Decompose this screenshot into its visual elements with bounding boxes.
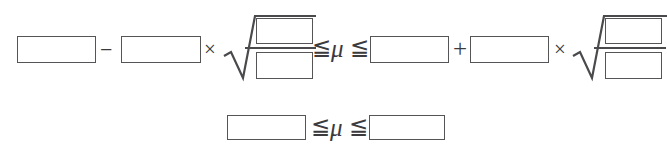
- plus-operator: +: [453, 36, 467, 61]
- blank-box-radical-numerator-left[interactable]: [256, 18, 313, 44]
- blank-box-upper-bound[interactable]: [369, 115, 445, 140]
- blank-box-radical-denominator-right[interactable]: [605, 52, 662, 79]
- fraction-bar-right: [594, 47, 666, 49]
- mu-parameter-line-2: μ: [330, 115, 343, 140]
- blank-box-mean-lower[interactable]: [17, 36, 96, 63]
- less-or-equal-left: ≦: [312, 36, 331, 59]
- less-or-equal-upper: ≦: [349, 115, 368, 138]
- blank-box-mean-upper[interactable]: [370, 36, 449, 63]
- less-or-equal-lower: ≦: [311, 115, 330, 138]
- formula-sheet: − × ≦ μ ≦ + ×: [0, 0, 667, 152]
- times-operator-right: ×: [554, 39, 566, 60]
- fraction-bar-left: [245, 47, 316, 49]
- blank-box-lower-bound[interactable]: [227, 115, 306, 140]
- mu-parameter-line-1: μ: [331, 36, 344, 61]
- blank-box-margin-coefficient-upper[interactable]: [470, 36, 549, 63]
- blank-box-margin-coefficient-lower[interactable]: [121, 36, 201, 63]
- minus-operator: −: [100, 39, 112, 61]
- times-operator-left: ×: [204, 39, 216, 60]
- blank-box-radical-denominator-left[interactable]: [256, 52, 313, 79]
- blank-box-radical-numerator-right[interactable]: [605, 18, 662, 44]
- less-or-equal-right: ≦: [350, 36, 369, 59]
